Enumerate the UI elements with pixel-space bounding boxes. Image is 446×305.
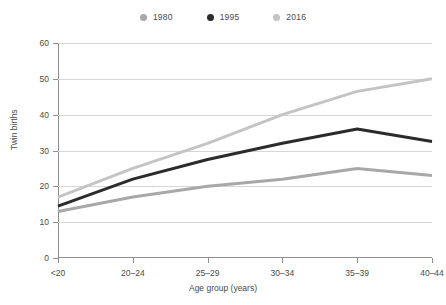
legend-item-2016[interactable]: 2016 (273, 13, 306, 22)
x-axis-title: Age group (years) (0, 283, 446, 293)
y-tick-label: 20 (40, 181, 49, 191)
x-tick-label: 25–29 (196, 268, 220, 278)
y-axis-title: Twin births (9, 109, 19, 150)
y-tick-label: 0 (44, 253, 49, 263)
series-line-1995 (58, 129, 432, 206)
x-tick-label: 30–34 (271, 268, 295, 278)
circle-dot-icon (140, 14, 147, 21)
y-tick-label: 50 (40, 74, 49, 84)
x-tick (357, 258, 358, 263)
x-tick-label: 40–44 (420, 268, 444, 278)
legend-item-1995[interactable]: 1995 (207, 13, 240, 22)
series-lines (58, 43, 432, 258)
legend-label: 1995 (220, 13, 240, 22)
circle-dot-icon (273, 14, 280, 21)
x-tick-label: <20 (51, 268, 65, 278)
legend-label: 1980 (153, 13, 173, 22)
line-chart: 1980 1995 2016 Twin births 0102030405060… (0, 0, 446, 305)
y-tick-label: 10 (40, 217, 49, 227)
x-tick (58, 258, 59, 263)
y-tick-label: 60 (40, 38, 49, 48)
plot-area: 0102030405060 <2020–2425–2930–3435–3940–… (58, 43, 432, 258)
x-tick (432, 258, 433, 263)
x-tick-label: 35–39 (345, 268, 369, 278)
x-tick (133, 258, 134, 263)
x-tick-label: 20–24 (121, 268, 145, 278)
chart-legend: 1980 1995 2016 (0, 13, 446, 22)
series-line-2016 (58, 79, 432, 197)
legend-item-1980[interactable]: 1980 (140, 13, 173, 22)
circle-dot-icon (207, 14, 214, 21)
x-tick (208, 258, 209, 263)
legend-label: 2016 (286, 13, 306, 22)
y-tick-label: 30 (40, 146, 49, 156)
x-tick (282, 258, 283, 263)
y-tick-label: 40 (40, 110, 49, 120)
